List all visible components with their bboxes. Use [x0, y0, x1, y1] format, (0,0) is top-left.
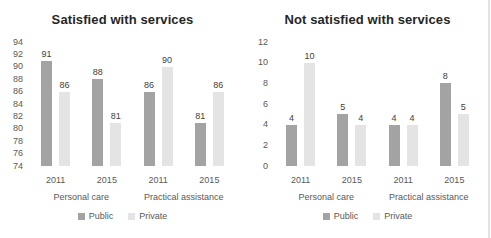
bar-value-label: 8 [443, 71, 448, 81]
legend-marker-private [373, 213, 380, 220]
bar-value-label: 81 [111, 111, 121, 121]
legend-marker-public [323, 213, 330, 220]
bar-value-label: 10 [305, 51, 315, 61]
bar-private [110, 123, 121, 166]
y-tick-label: 82 [13, 111, 23, 122]
bar-private [162, 67, 173, 166]
legend: Public Private [0, 211, 245, 221]
bar-column: 4 [389, 113, 400, 166]
chart-title: Not satisfied with services [245, 12, 490, 28]
bar-value-label: 4 [392, 113, 397, 123]
x-tick-label: 2011 [133, 175, 184, 185]
page-edge-line [488, 0, 490, 238]
x-tick-label: 2015 [429, 175, 480, 185]
bar-column: 81 [110, 111, 121, 166]
group-label-personal-care: Personal care [275, 192, 378, 202]
bar-public [286, 125, 297, 166]
y-axis: 9492908886848280787674 [0, 42, 30, 166]
x-tick-label: 2011 [30, 175, 81, 185]
x-tick-label: 2011 [275, 175, 326, 185]
legend-label-public: Public [334, 211, 359, 221]
legend-label-private: Private [139, 211, 167, 221]
plot-area: 410544485 [275, 42, 480, 166]
y-tick-label: 78 [13, 136, 23, 147]
bar-group: 8690 [144, 55, 173, 166]
bar-group: 8881 [92, 67, 121, 166]
legend-marker-private [128, 213, 135, 220]
group-label-personal-care: Personal care [30, 192, 133, 202]
bar-value-label: 86 [144, 80, 154, 90]
x-axis-year-labels: 2011 2015 2011 2015 [275, 175, 490, 185]
bar-value-label: 86 [213, 80, 223, 90]
plot-wrapper: 9492908886848280787674 9186888186908186 [0, 42, 245, 166]
bar-private [407, 125, 418, 166]
y-tick-label: 2 [263, 140, 268, 151]
y-tick-label: 76 [13, 148, 23, 159]
legend-item-public: Public [323, 211, 359, 221]
plot-area: 9186888186908186 [30, 42, 235, 166]
bar-column: 88 [92, 67, 103, 166]
y-tick-label: 88 [13, 74, 23, 85]
y-tick-label: 0 [263, 161, 268, 172]
y-tick-label: 84 [13, 99, 23, 110]
y-tick-label: 80 [13, 123, 23, 134]
bar-private [304, 63, 315, 166]
y-tick-label: 4 [263, 119, 268, 130]
bar-public [144, 92, 155, 166]
y-axis: 121086420 [245, 42, 275, 166]
bar-public [92, 79, 103, 166]
bar-public [389, 125, 400, 166]
bar-group: 8186 [195, 80, 224, 166]
x-axis-year-labels: 2011 2015 2011 2015 [30, 175, 245, 185]
x-tick-label: 2015 [326, 175, 377, 185]
bar-value-label: 4 [289, 113, 294, 123]
bar-value-label: 88 [93, 67, 103, 77]
legend-marker-public [78, 213, 85, 220]
legend-item-public: Public [78, 211, 114, 221]
legend-item-private: Private [128, 211, 167, 221]
bar-public [41, 61, 52, 166]
bar-public [337, 114, 348, 166]
bar-column: 86 [213, 80, 224, 166]
bar-column: 5 [337, 102, 348, 166]
x-tick-label: 2015 [184, 175, 235, 185]
bar-column: 4 [407, 113, 418, 166]
bar-group: 410 [286, 51, 315, 166]
bar-column: 90 [162, 55, 173, 166]
y-tick-label: 12 [258, 37, 268, 48]
bar-value-label: 91 [42, 49, 52, 59]
bar-column: 4 [355, 113, 366, 166]
satisfaction-bar-charts-figure: Satisfied with services 9492908886848280… [0, 0, 491, 238]
y-tick-label: 8 [263, 78, 268, 89]
bar-column: 86 [144, 80, 155, 166]
y-tick-label: 6 [263, 99, 268, 110]
bar-column: 10 [304, 51, 315, 166]
x-axis-group-labels: Personal care Practical assistance [275, 192, 490, 202]
bar-value-label: 4 [410, 113, 415, 123]
bar-public [440, 83, 451, 166]
y-tick-label: 90 [13, 61, 23, 72]
legend-label-private: Private [384, 211, 412, 221]
group-label-practical-assistance: Practical assistance [378, 192, 481, 202]
bar-group: 85 [440, 71, 469, 166]
x-tick-label: 2015 [81, 175, 132, 185]
bar-column: 4 [286, 113, 297, 166]
bar-value-label: 5 [340, 102, 345, 112]
bar-column: 86 [59, 80, 70, 166]
x-axis-group-labels: Personal care Practical assistance [30, 192, 245, 202]
bar-private [355, 125, 366, 166]
legend: Public Private [245, 211, 490, 221]
bar-value-label: 4 [358, 113, 363, 123]
bar-value-label: 5 [461, 102, 466, 112]
y-tick-label: 74 [13, 161, 23, 172]
bar-value-label: 86 [60, 80, 70, 90]
chart-title: Satisfied with services [0, 12, 245, 28]
bar-public [195, 123, 206, 166]
bar-private [59, 92, 70, 166]
chart-satisfied: Satisfied with services 9492908886848280… [0, 0, 245, 238]
plot-wrapper: 121086420 410544485 [245, 42, 490, 166]
y-tick-label: 92 [13, 49, 23, 60]
legend-label-public: Public [89, 211, 114, 221]
y-tick-label: 86 [13, 86, 23, 97]
bar-private [458, 114, 469, 166]
